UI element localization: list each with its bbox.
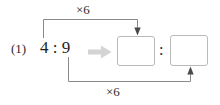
answer-box-antecedent[interactable] <box>117 36 155 66</box>
bottom-multiplier-label: ×6 <box>106 85 120 98</box>
right-arrow-icon <box>88 45 112 59</box>
problem-number-label: (1) <box>11 42 26 55</box>
given-ratio-text: 4 : 9 <box>40 39 70 56</box>
ratio-exercise-diagram: (1) 4 : 9 ×6 : ×6 <box>0 0 220 105</box>
answer-ratio-separator: : <box>159 42 163 58</box>
answer-box-consequent[interactable] <box>170 35 208 66</box>
top-multiplier-label: ×6 <box>76 3 90 16</box>
